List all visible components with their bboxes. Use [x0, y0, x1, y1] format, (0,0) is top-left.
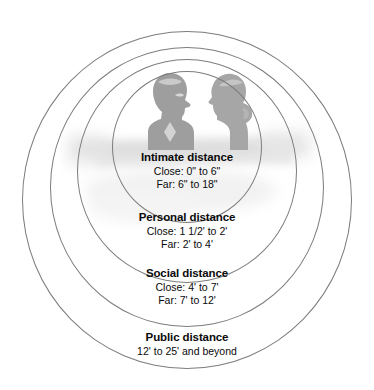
- zone-close-intimate: Close: 0" to 6": [0, 165, 374, 178]
- zone-label-personal: Personal distance Close: 1 1/2' to 2' Fa…: [0, 210, 374, 252]
- zone-label-intimate: Intimate distance Close: 0" to 6" Far: 6…: [0, 150, 374, 192]
- ring-intimate-distance: [112, 71, 262, 223]
- zone-title-intimate: Intimate distance: [0, 150, 374, 165]
- zone-label-public: Public distance 12' to 25' and beyond: [0, 330, 374, 358]
- proxemics-diagram: Intimate distance Close: 0" to 6" Far: 6…: [0, 0, 374, 390]
- zone-far-personal: Far: 2' to 4': [0, 238, 374, 251]
- zone-far-intimate: Far: 6" to 18": [0, 178, 374, 191]
- zone-far-social: Far: 7' to 12': [0, 294, 374, 307]
- zone-title-social: Social distance: [0, 266, 374, 281]
- zone-close-social: Close: 4' to 7': [0, 281, 374, 294]
- zone-close-personal: Close: 1 1/2' to 2': [0, 225, 374, 238]
- zone-title-personal: Personal distance: [0, 210, 374, 225]
- zone-label-social: Social distance Close: 4' to 7' Far: 7' …: [0, 266, 374, 308]
- zone-title-public: Public distance: [0, 330, 374, 345]
- zone-range-public: 12' to 25' and beyond: [0, 345, 374, 358]
